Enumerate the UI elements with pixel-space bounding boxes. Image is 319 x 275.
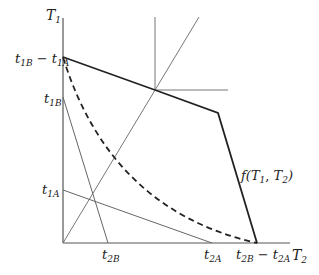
dashed-curve (63, 57, 257, 243)
tick-sub: 2B (107, 254, 119, 264)
frontier-curve (63, 57, 257, 243)
diagram-svg (0, 0, 319, 275)
t2-axis-label: T2 (292, 248, 307, 265)
label-comma: , (265, 168, 273, 183)
tick-minus: − (33, 51, 52, 66)
diagram-canvas: T1 t1B − t1A t1B t1A t2B t2A t2B − t2A T… (0, 0, 319, 275)
tick-sub: 1B (49, 98, 61, 108)
b-constraint-line (63, 97, 108, 243)
label-t1: T (251, 168, 260, 183)
tick-sub2: 1A (57, 58, 69, 68)
label-t2: T (274, 168, 283, 183)
frontier-function-label: f(T1, T2) (241, 169, 293, 185)
label-prefix: f( (241, 168, 251, 183)
t2-axis-label-sub: 2 (301, 255, 307, 265)
y-tick-t1b-minus-t1a: t1B − t1A (15, 52, 69, 68)
tick-sub: 2A (209, 254, 221, 264)
tick-sub: 2B (241, 254, 253, 264)
label-suffix: ) (288, 168, 293, 183)
tick-minus: − (254, 247, 273, 262)
x-tick-t2b: t2B (102, 248, 120, 264)
t1-axis-label: T1 (46, 8, 61, 25)
a-constraint-line (63, 190, 212, 243)
x-tick-t2b-minus-t2a: t2B − t2A (236, 248, 290, 264)
tick-sub2: 2A (278, 254, 290, 264)
t2-axis-label-main: T (292, 247, 301, 263)
tick-sub: 1A (47, 189, 59, 199)
x-tick-t2a: t2A (204, 248, 221, 264)
y-tick-t1a: t1A (42, 183, 59, 199)
y-tick-t1b: t1B (44, 92, 62, 108)
t1-axis-label-sub: 1 (55, 15, 61, 25)
diagonal-ray (63, 17, 199, 243)
tick-sub: 1B (20, 58, 32, 68)
t1-axis-label-main: T (46, 7, 55, 23)
